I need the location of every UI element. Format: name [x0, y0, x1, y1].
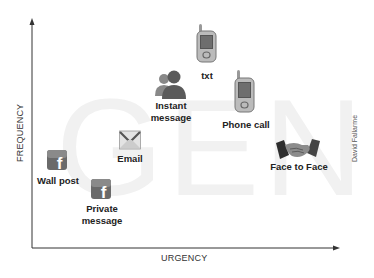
node-label-phone-call: Phone call [220, 119, 272, 131]
mobile-phone-icon [196, 24, 218, 64]
facebook-icon: f [91, 179, 111, 199]
mobile-phone-icon [234, 70, 256, 114]
diagram-canvas: GEN Y FREQUENCY URGENCY David Fallarme t… [0, 0, 374, 278]
svg-text:f: f [101, 183, 107, 199]
node-label-instant-message: Instant message [148, 100, 194, 124]
node-label-wall-post: Wall post [36, 175, 80, 187]
users-icon [154, 70, 188, 100]
envelope-icon [119, 130, 141, 150]
facebook-icon: f [47, 150, 67, 170]
handshake-icon [276, 137, 320, 161]
y-axis-label: FREQUENCY [15, 104, 25, 162]
svg-text:f: f [57, 154, 63, 170]
x-axis-label: URGENCY [161, 253, 207, 263]
credit-text: David Fallarme [351, 115, 358, 162]
node-label-face-to-face: Face to Face [270, 161, 328, 173]
node-label-email: Email [114, 153, 146, 165]
node-label-private-message: Private message [80, 203, 124, 227]
node-label-txt: txt [196, 70, 218, 82]
